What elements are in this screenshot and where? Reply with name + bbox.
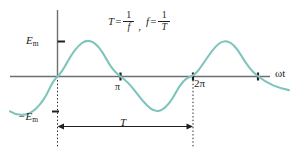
- formula-period-equals: =: [115, 15, 121, 27]
- formula-frequency-denominator: T: [158, 22, 170, 33]
- formula-frequency-equals: =: [150, 15, 156, 27]
- formula-frequency-numerator: 1: [159, 10, 170, 21]
- formula-separator: ,: [138, 20, 141, 32]
- tick-label-pi: π: [115, 82, 120, 92]
- amplitude-negative-subscript: m: [32, 115, 38, 124]
- formula-period-lhs: T: [108, 15, 114, 27]
- period-label: T: [120, 117, 126, 128]
- amplitude-positive-symbol: E: [26, 34, 33, 46]
- formula-period-denominator: f: [124, 22, 133, 33]
- formula-period-fraction: 1 f: [123, 10, 134, 32]
- formula-block: T = 1 f , f = 1 T: [108, 10, 171, 32]
- amplitude-positive-subscript: m: [33, 39, 39, 48]
- amplitude-negative-symbol: −E: [18, 110, 32, 122]
- amplitude-positive-label: Em: [26, 35, 39, 48]
- formula-frequency-fraction: 1 T: [158, 10, 170, 32]
- tick-label-2pi: 2π: [194, 78, 205, 89]
- waveform-figure: Em −Em π 2π ωt T T = 1 f , f = 1 T: [0, 0, 299, 155]
- amplitude-negative-label: −Em: [18, 111, 38, 124]
- sine-curve: [10, 41, 289, 115]
- x-axis-label: ωt: [275, 68, 285, 79]
- formula-frequency-lhs: f: [146, 15, 149, 27]
- formula-period-numerator: 1: [123, 10, 134, 21]
- formula-frequency: f = 1 T: [146, 10, 171, 32]
- formula-period: T = 1 f: [108, 10, 135, 32]
